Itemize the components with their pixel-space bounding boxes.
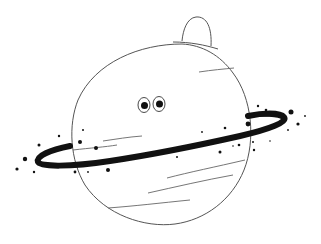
left-eye-pupil <box>141 102 148 109</box>
planet-illustration <box>0 0 321 244</box>
illustration-canvas: Cartoon ringed planet with eyes <box>0 0 321 244</box>
right-eye-pupil <box>156 101 163 108</box>
planet-body <box>72 44 251 225</box>
top-bump <box>182 17 211 46</box>
